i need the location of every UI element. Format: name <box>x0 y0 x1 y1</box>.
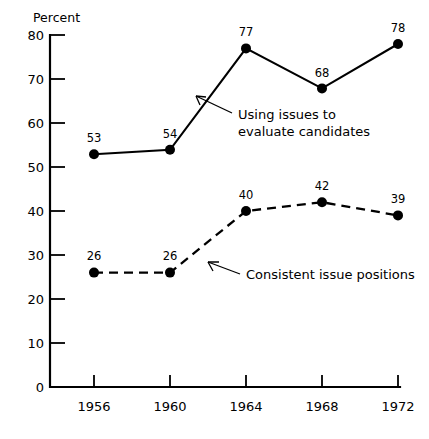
y-label-30: 30 <box>27 248 44 263</box>
x-label-1968: 1968 <box>305 399 338 414</box>
axis-lines <box>50 35 400 387</box>
x-label-1964: 1964 <box>229 399 262 414</box>
x-axis-ticks <box>94 375 398 387</box>
data-point-marker <box>165 145 175 155</box>
y-axis-ticks <box>50 35 65 343</box>
line-chart: Percent 80 70 60 50 40 30 20 10 0 <box>0 0 429 439</box>
point-value-label: 39 <box>391 192 406 206</box>
annotation-text-line-2: evaluate candidates <box>238 124 370 139</box>
point-value-label: 68 <box>315 66 330 80</box>
annotation-text-line-1: Consistent issue positions <box>246 267 415 282</box>
annotation-arrow-head-icon <box>208 262 219 271</box>
x-label-1972: 1972 <box>381 399 414 414</box>
point-value-label: 42 <box>315 179 330 193</box>
data-point-marker <box>89 268 99 278</box>
data-point-marker <box>89 149 99 159</box>
series-using-issues-markers <box>89 39 403 159</box>
point-value-label: 54 <box>163 127 178 141</box>
y-axis-tick-labels: 80 70 60 50 40 30 20 10 0 <box>27 28 44 395</box>
y-axis-title: Percent <box>33 10 80 25</box>
data-point-marker <box>317 197 327 207</box>
y-label-40: 40 <box>27 204 44 219</box>
annotation-text-line-1: Using issues to <box>238 107 336 122</box>
y-label-20: 20 <box>27 292 44 307</box>
data-point-marker <box>317 83 327 93</box>
data-point-marker <box>241 43 251 53</box>
point-value-label: 77 <box>239 25 254 39</box>
chart-container: Percent 80 70 60 50 40 30 20 10 0 <box>0 0 429 439</box>
annotation-leader-line <box>208 262 240 274</box>
point-value-label: 78 <box>391 21 406 35</box>
point-value-label: 26 <box>163 249 178 263</box>
x-axis-tick-labels: 1956 1960 1964 1968 1972 <box>77 399 414 414</box>
y-label-10: 10 <box>27 336 44 351</box>
y-label-70: 70 <box>27 72 44 87</box>
annotation-consistent-issue: Consistent issue positions <box>208 262 415 282</box>
x-label-1960: 1960 <box>153 399 186 414</box>
series-consistent-issue-markers <box>89 197 403 277</box>
point-value-label: 26 <box>87 249 102 263</box>
y-label-0: 0 <box>36 380 44 395</box>
data-point-marker <box>393 210 403 220</box>
point-value-label: 40 <box>239 188 254 202</box>
y-label-50: 50 <box>27 160 44 175</box>
point-value-label: 53 <box>87 131 102 145</box>
annotation-leader-line <box>196 96 232 113</box>
y-label-80: 80 <box>27 28 44 43</box>
data-point-marker <box>241 206 251 216</box>
x-label-1956: 1956 <box>77 399 110 414</box>
data-point-marker <box>165 268 175 278</box>
series-consistent-issue-point-labels: 26 26 40 42 39 <box>87 179 406 263</box>
annotation-using-issues: Using issues to evaluate candidates <box>196 96 370 139</box>
data-point-marker <box>393 39 403 49</box>
y-label-60: 60 <box>27 116 44 131</box>
